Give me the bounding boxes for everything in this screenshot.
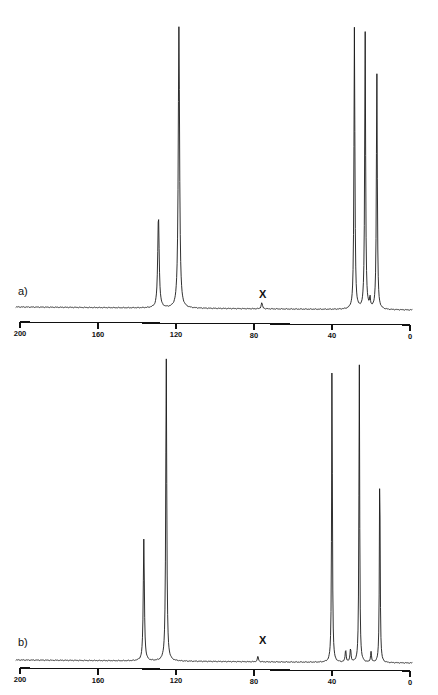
panel-a-axis: 20016012080400 — [14, 322, 412, 341]
axis-tick-label: 80 — [250, 677, 258, 686]
axis-tick-label: 120 — [170, 330, 183, 339]
spectrum-panel-b: b) X 20016012080400 — [0, 348, 438, 695]
panel-b-plot: 20016012080400 — [0, 348, 438, 695]
panel-b-axis: 20016012080400 — [14, 668, 412, 687]
axis-tick-label: 40 — [328, 677, 336, 686]
axis-tick-label: 40 — [328, 331, 336, 340]
spectrum-panel-a: a) X 20016012080400 — [0, 0, 438, 348]
axis-baseline — [20, 322, 410, 325]
nmr-figure: a) X 20016012080400 b) X 20016012080400 — [0, 0, 438, 695]
panel-a-plot: 20016012080400 — [0, 0, 438, 348]
axis-tick-label: 200 — [14, 329, 27, 338]
axis-baseline — [20, 668, 410, 671]
panel-b-trace — [16, 359, 412, 663]
axis-tick-label: 200 — [14, 675, 27, 684]
axis-tick-label: 160 — [92, 676, 105, 685]
axis-tick-label: 120 — [170, 676, 183, 685]
axis-tick-label: 160 — [92, 330, 105, 339]
axis-tick-label: 80 — [250, 331, 258, 340]
panel-a-trace — [16, 27, 412, 310]
axis-tick-label: 0 — [408, 332, 412, 341]
axis-tick-label: 0 — [408, 678, 412, 687]
